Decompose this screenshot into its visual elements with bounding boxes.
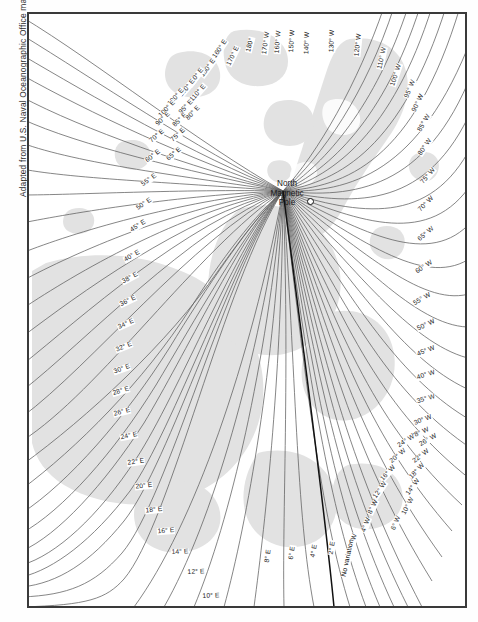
isogonic-label: 130° W	[328, 29, 336, 53]
isogonic-label: 12° E	[187, 568, 206, 575]
isogonic-map-page: Adapted from U.S. Naval Oceanographic Of…	[0, 0, 478, 622]
isogonic-label: 10° E	[202, 592, 221, 599]
landmass-layer	[32, 30, 439, 553]
isogonic-label: 150° W	[288, 29, 296, 53]
isogonic-label: 16° E	[157, 527, 176, 535]
isogonic-label: 140° W	[303, 31, 311, 55]
isogonic-label: 14° E	[171, 548, 190, 556]
map-frame: North Magnetic Pole 160° E150° E140° E13…	[27, 12, 467, 608]
pole-marker-icon	[307, 198, 314, 205]
